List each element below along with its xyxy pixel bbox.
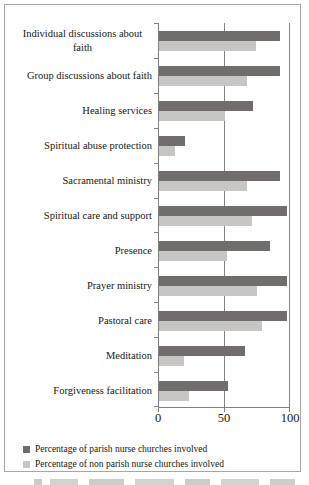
category-axis-tick — [154, 198, 159, 199]
bar-parish-nurse — [159, 136, 185, 146]
category-label: Forgiveness facilitation — [53, 384, 154, 397]
category-axis-tick — [154, 406, 159, 407]
x-axis-tick-label: 0 — [155, 411, 161, 426]
category-label-row: Meditation — [13, 338, 154, 373]
bar-non-parish-nurse — [159, 146, 175, 156]
bar-row — [159, 58, 290, 93]
x-axis-tick-label: 100 — [281, 411, 300, 426]
bar-row — [159, 373, 290, 408]
category-axis-tick — [154, 372, 159, 373]
bar-non-parish-nurse — [159, 321, 262, 331]
category-label-row: Healing services — [13, 93, 154, 128]
bar-parish-nurse — [159, 66, 280, 76]
bar-parish-nurse — [159, 276, 287, 286]
bar-non-parish-nurse — [159, 356, 184, 366]
bar-parish-nurse — [159, 171, 280, 181]
bar-parish-nurse — [159, 311, 287, 321]
chart-figure: Individual discussions about faithGroup … — [0, 0, 309, 485]
category-label: Presence — [115, 244, 154, 257]
bar-row — [159, 303, 290, 338]
category-label-row: Sacramental ministry — [13, 163, 154, 198]
legend-marker-non-parish-nurse — [23, 461, 30, 468]
bar-row — [159, 128, 290, 163]
legend-item-non-parish-nurse: Percentage of non parish nurse churches … — [23, 459, 224, 469]
category-axis-tick — [154, 128, 159, 129]
category-label: Healing services — [82, 104, 154, 117]
legend-item-parish-nurse: Percentage of parish nurse churches invo… — [23, 444, 224, 454]
bar-non-parish-nurse — [159, 391, 189, 401]
x-axis-labels: 0 50 100 — [158, 411, 290, 426]
chart-frame: Individual discussions about faithGroup … — [4, 4, 301, 472]
category-label: Spiritual care and support — [44, 209, 154, 222]
bar-row — [159, 198, 290, 233]
category-label: Individual discussions about faith — [13, 27, 154, 53]
category-label: Pastoral care — [98, 314, 154, 327]
legend-label-non-parish-nurse: Percentage of non parish nurse churches … — [35, 459, 224, 469]
category-label: Spiritual abuse protection — [44, 139, 154, 152]
category-label-row: Spiritual abuse protection — [13, 128, 154, 163]
bar-row — [159, 268, 290, 303]
bar-non-parish-nurse — [159, 216, 252, 226]
bar-non-parish-nurse — [159, 111, 225, 121]
category-axis-tick — [154, 93, 159, 94]
category-labels: Individual discussions about faithGroup … — [13, 23, 154, 408]
bar-row — [159, 338, 290, 373]
category-axis-tick — [154, 163, 159, 164]
bar-non-parish-nurse — [159, 181, 247, 191]
bar-non-parish-nurse — [159, 76, 247, 86]
category-label-row: Presence — [13, 233, 154, 268]
category-label-row: Group discussions about faith — [13, 58, 154, 93]
category-label: Sacramental ministry — [62, 174, 154, 187]
bar-row — [159, 93, 290, 128]
legend-marker-parish-nurse — [23, 446, 30, 453]
bar-row — [159, 23, 290, 58]
category-label-row: Spiritual care and support — [13, 198, 154, 233]
bar-parish-nurse — [159, 101, 253, 111]
bar-non-parish-nurse — [159, 41, 256, 51]
x-axis-tick-label: 50 — [218, 411, 231, 426]
category-label-row: Individual discussions about faith — [13, 23, 154, 58]
cutoff-caption-fragment — [20, 479, 295, 485]
category-label: Prayer ministry — [87, 279, 154, 292]
bar-row — [159, 163, 290, 198]
legend: Percentage of parish nurse churches invo… — [23, 444, 224, 474]
category-label-row: Forgiveness facilitation — [13, 373, 154, 408]
category-axis-tick — [154, 23, 159, 24]
category-label-row: Pastoral care — [13, 303, 154, 338]
category-axis-tick — [154, 232, 159, 233]
category-axis-tick — [154, 58, 159, 59]
bar-parish-nurse — [159, 206, 287, 216]
bar-parish-nurse — [159, 381, 228, 391]
category-label: Meditation — [106, 349, 154, 362]
bar-parish-nurse — [159, 241, 270, 251]
plot-rows — [159, 23, 290, 407]
category-axis-tick — [154, 337, 159, 338]
bar-parish-nurse — [159, 346, 245, 356]
category-axis-tick — [154, 302, 159, 303]
bar-row — [159, 233, 290, 268]
category-axis-tick — [154, 267, 159, 268]
bar-non-parish-nurse — [159, 251, 227, 261]
bar-parish-nurse — [159, 31, 280, 41]
plot-area — [158, 23, 290, 408]
category-label: Group discussions about faith — [27, 69, 154, 82]
legend-label-parish-nurse: Percentage of parish nurse churches invo… — [35, 444, 207, 454]
category-label-row: Prayer ministry — [13, 268, 154, 303]
bar-non-parish-nurse — [159, 286, 257, 296]
